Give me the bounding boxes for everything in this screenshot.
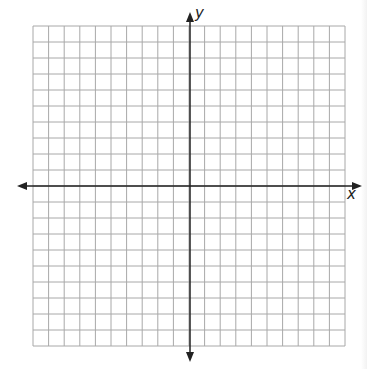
- y-axis-up-arrow-icon: [186, 12, 194, 22]
- y-axis-label: y: [195, 4, 204, 22]
- coordinate-plane: [0, 0, 367, 369]
- y-axis-down-arrow-icon: [186, 352, 194, 362]
- x-axis-left-arrow-icon: [17, 182, 27, 190]
- x-axis-label: x: [347, 185, 356, 203]
